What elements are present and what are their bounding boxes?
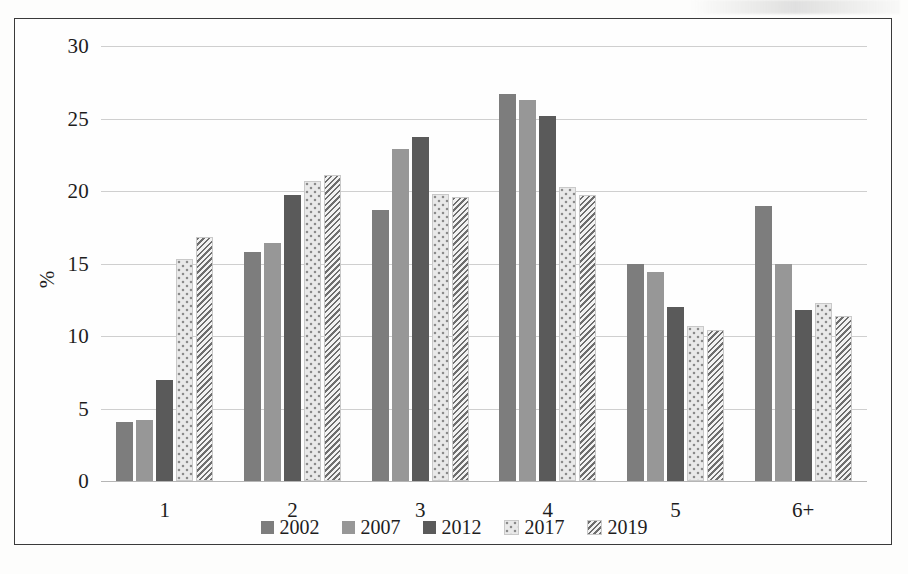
bar[interactable] xyxy=(755,206,772,482)
bar[interactable] xyxy=(136,420,153,481)
y-tick-label: 20 xyxy=(68,179,89,204)
bar[interactable] xyxy=(707,330,724,481)
bar[interactable] xyxy=(519,100,536,481)
legend-swatch-icon xyxy=(342,521,355,534)
bar[interactable] xyxy=(687,326,704,481)
bar[interactable] xyxy=(835,316,852,481)
bar-group xyxy=(356,46,484,481)
bar[interactable] xyxy=(284,195,301,481)
legend-item[interactable]: 2019 xyxy=(587,516,648,539)
chart-legend: 20022007201220172019 xyxy=(15,516,893,539)
bar[interactable] xyxy=(667,307,684,481)
bar[interactable] xyxy=(176,259,193,481)
y-tick-label: 15 xyxy=(68,251,89,276)
y-tick-label: 10 xyxy=(68,324,89,349)
bar[interactable] xyxy=(412,137,429,481)
legend-label: 2002 xyxy=(280,516,320,539)
y-axis-title: % xyxy=(35,271,60,289)
bar[interactable] xyxy=(499,94,516,481)
legend-swatch-icon xyxy=(504,520,519,535)
legend-label: 2017 xyxy=(525,516,565,539)
bar[interactable] xyxy=(452,197,469,481)
legend-item[interactable]: 2012 xyxy=(423,516,482,539)
bar[interactable] xyxy=(244,252,261,481)
bar[interactable] xyxy=(539,116,556,481)
legend-label: 2012 xyxy=(442,516,482,539)
bar[interactable] xyxy=(392,149,409,481)
bar[interactable] xyxy=(156,380,173,482)
plot-area: 051015202530 123456+ xyxy=(101,46,867,481)
bar-group xyxy=(229,46,357,481)
bar[interactable] xyxy=(775,264,792,482)
bar[interactable] xyxy=(324,175,341,481)
gridline xyxy=(101,481,867,482)
legend-item[interactable]: 2002 xyxy=(261,516,320,539)
y-tick-label: 30 xyxy=(68,34,89,59)
bar-group xyxy=(739,46,867,481)
bar[interactable] xyxy=(559,187,576,481)
bars-layer xyxy=(101,46,867,481)
y-tick-label: 0 xyxy=(78,469,89,494)
scan-artifact xyxy=(690,0,900,14)
bar[interactable] xyxy=(815,303,832,481)
bar[interactable] xyxy=(432,194,449,481)
bar[interactable] xyxy=(627,264,644,482)
bar-group xyxy=(101,46,229,481)
bar-group xyxy=(484,46,612,481)
y-tick-label: 5 xyxy=(78,396,89,421)
bar[interactable] xyxy=(264,243,281,481)
bar[interactable] xyxy=(579,195,596,481)
bar[interactable] xyxy=(647,272,664,481)
bar[interactable] xyxy=(196,237,213,481)
legend-label: 2007 xyxy=(361,516,401,539)
bar[interactable] xyxy=(795,310,812,481)
legend-swatch-icon xyxy=(261,521,274,534)
bar-group xyxy=(612,46,740,481)
chart-frame: % 051015202530 123456+ 20022007201220172… xyxy=(14,18,892,545)
legend-swatch-icon xyxy=(587,520,602,535)
legend-item[interactable]: 2017 xyxy=(504,516,565,539)
legend-label: 2019 xyxy=(608,516,648,539)
bar[interactable] xyxy=(304,181,321,481)
legend-item[interactable]: 2007 xyxy=(342,516,401,539)
bar[interactable] xyxy=(372,210,389,481)
y-tick-label: 25 xyxy=(68,106,89,131)
legend-swatch-icon xyxy=(423,521,436,534)
bar[interactable] xyxy=(116,422,133,481)
